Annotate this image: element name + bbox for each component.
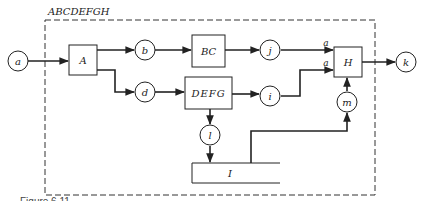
- node-b-label: b: [142, 45, 148, 56]
- block-BC-label: BC: [200, 46, 217, 57]
- block-DEFG-label: DEFG: [190, 88, 225, 99]
- block-I: [192, 163, 280, 183]
- node-m-label: m: [342, 97, 351, 108]
- h-input-top-label: a: [323, 38, 328, 48]
- caption-partial: Figure 6.11: [20, 196, 70, 201]
- h-input-bottom-label: a: [323, 58, 328, 68]
- node-k-label: k: [403, 57, 409, 68]
- node-i-label: i: [268, 91, 271, 102]
- group-label: ABCDEFGH: [47, 6, 110, 17]
- node-l-label: l: [208, 130, 211, 141]
- block-I-label: I: [227, 168, 233, 179]
- block-diagram: ABCDEFGH A BC DEFG H I: [0, 0, 424, 201]
- node-a-label: a: [15, 56, 21, 67]
- edge-I-m: [251, 113, 347, 163]
- block-A-label: A: [78, 55, 86, 66]
- block-H-label: H: [343, 57, 353, 68]
- edge-A-d: [97, 70, 134, 92]
- node-d-label: d: [142, 87, 148, 98]
- edge-i-H: [281, 70, 333, 96]
